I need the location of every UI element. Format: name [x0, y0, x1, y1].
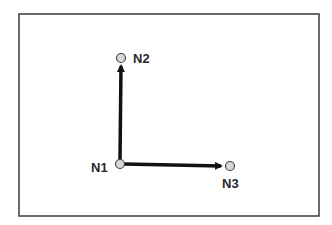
node-label-n2: N2 — [133, 51, 150, 66]
graph-diagram: N1 N2 N3 — [0, 0, 332, 225]
node-label-n1: N1 — [91, 160, 108, 175]
edge-n1-n2 — [120, 66, 121, 160]
node-circle-n3 — [226, 162, 235, 171]
node-label-n3: N3 — [222, 176, 239, 191]
node-circle-n2 — [117, 54, 126, 63]
node-n3: N3 — [222, 162, 239, 192]
edge-n1-n3 — [124, 164, 221, 166]
diagram-frame — [19, 14, 319, 216]
node-circle-n1 — [116, 160, 125, 169]
node-n1: N1 — [91, 160, 125, 176]
node-n2: N2 — [117, 51, 150, 66]
